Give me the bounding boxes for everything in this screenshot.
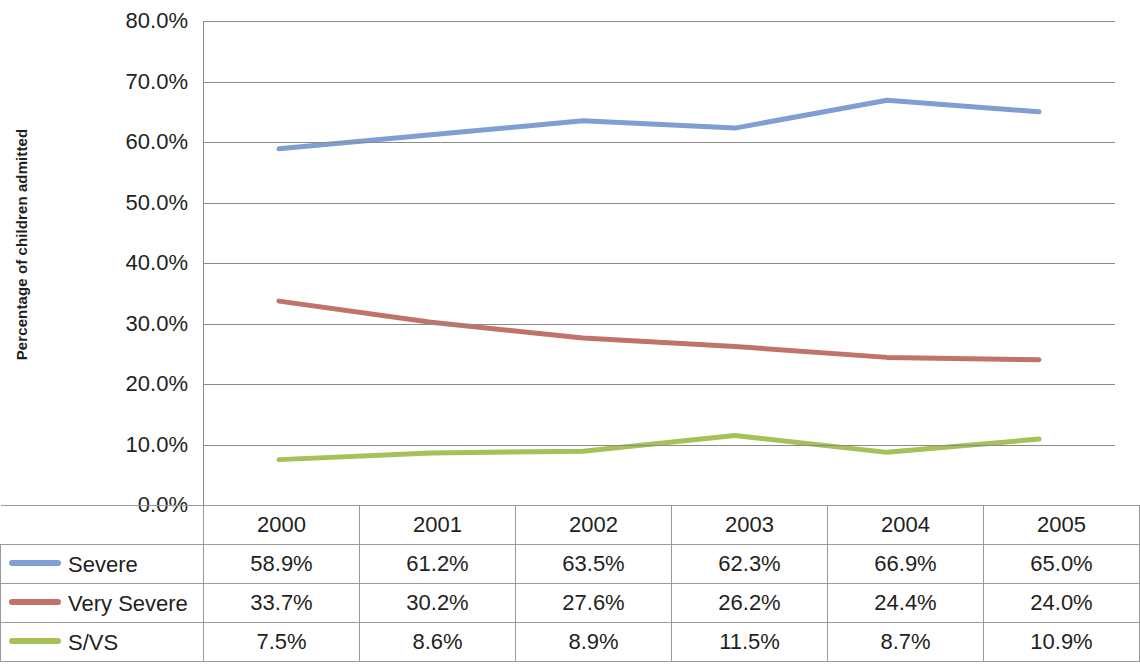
- legend-swatch-icon: [9, 599, 61, 605]
- legend-swatch-icon: [9, 638, 61, 644]
- legend-swatch-icon: [9, 560, 61, 566]
- table-cell-value: 61.2%: [360, 545, 516, 584]
- table-row: Severe58.9%61.2%63.5%62.3%66.9%65.0%: [1, 545, 1140, 584]
- gridline-30: [203, 324, 1115, 325]
- table-cell-value: 30.2%: [360, 584, 516, 623]
- legend-cell: S/VS: [1, 623, 204, 662]
- table-header-year: 2000: [204, 506, 360, 545]
- data-table: 200020012002200320042005Severe58.9%61.2%…: [0, 505, 1140, 662]
- y-tick-label: 60.0%: [60, 131, 188, 153]
- gridline-60: [203, 142, 1115, 143]
- y-tick-label: 80.0%: [60, 10, 188, 32]
- table-cell-value: 7.5%: [204, 623, 360, 662]
- y-axis-tick-labels: 0.0%10.0%20.0%30.0%40.0%50.0%60.0%70.0%8…: [60, 0, 188, 520]
- table-cell-value: 11.5%: [672, 623, 828, 662]
- table-header-row: 200020012002200320042005: [1, 506, 1140, 545]
- table-cell-value: 24.0%: [984, 584, 1140, 623]
- legend-cell: Very Severe: [1, 584, 204, 623]
- table-cell-value: 63.5%: [516, 545, 672, 584]
- table-cell-value: 10.9%: [984, 623, 1140, 662]
- gridline-50: [203, 203, 1115, 204]
- gridline-70: [203, 82, 1115, 83]
- table-cell-value: 27.6%: [516, 584, 672, 623]
- legend-label: Very Severe: [68, 591, 188, 617]
- line-series-very-severe: [279, 301, 1039, 360]
- table-cell-value: 8.6%: [360, 623, 516, 662]
- gridline-80: [203, 21, 1115, 22]
- table-header-year: 2002: [516, 506, 672, 545]
- y-tick-label: 70.0%: [60, 71, 188, 93]
- legend-label: Severe: [68, 552, 138, 578]
- table-cell-value: 8.7%: [828, 623, 984, 662]
- line-series-s-vs: [279, 435, 1039, 459]
- table-header-year: 2001: [360, 506, 516, 545]
- gridline-20: [203, 384, 1115, 385]
- legend-label: S/VS: [68, 630, 118, 656]
- plot-area: [203, 21, 1115, 505]
- table-cell-value: 58.9%: [204, 545, 360, 584]
- table-header-year: 2003: [672, 506, 828, 545]
- y-tick-label: 50.0%: [60, 192, 188, 214]
- gridline-10: [203, 445, 1115, 446]
- y-tick-label: 10.0%: [60, 434, 188, 456]
- table-row: S/VS7.5%8.6%8.9%11.5%8.7%10.9%: [1, 623, 1140, 662]
- table-cell-value: 33.7%: [204, 584, 360, 623]
- table-header-year: 2005: [984, 506, 1140, 545]
- y-tick-label: 40.0%: [60, 252, 188, 274]
- table-cell-value: 62.3%: [672, 545, 828, 584]
- table-cell-value: 65.0%: [984, 545, 1140, 584]
- table-cell-value: 8.9%: [516, 623, 672, 662]
- table-cell-value: 24.4%: [828, 584, 984, 623]
- gridline-40: [203, 263, 1115, 264]
- legend-cell: Severe: [1, 545, 204, 584]
- table-cell-value: 26.2%: [672, 584, 828, 623]
- table-cell-value: 66.9%: [828, 545, 984, 584]
- table-header-year: 2004: [828, 506, 984, 545]
- y-tick-label: 30.0%: [60, 313, 188, 335]
- y-axis-title: Percentage of children admitted: [13, 120, 30, 370]
- y-tick-label: 20.0%: [60, 373, 188, 395]
- table-corner-cell: [1, 506, 204, 545]
- table-row: Very Severe33.7%30.2%27.6%26.2%24.4%24.0…: [1, 584, 1140, 623]
